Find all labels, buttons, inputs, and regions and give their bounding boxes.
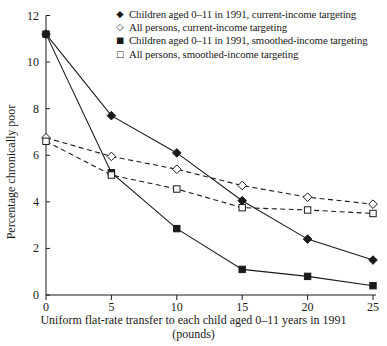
- y-tick-label: 4: [33, 195, 39, 209]
- filled-square-marker: [304, 273, 310, 279]
- filled-square-marker: [370, 282, 376, 288]
- y-tick-label: 10: [27, 55, 39, 69]
- filled-square-marker: [239, 266, 245, 272]
- legend-label: Children aged 0–11 in 1991, current-inco…: [129, 8, 356, 20]
- open-square-marker: [239, 204, 245, 210]
- filled-diamond-marker: [173, 149, 182, 158]
- open-diamond-icon: ◇: [114, 22, 126, 32]
- series-line-2: [46, 34, 373, 286]
- y-tick-label: 0: [33, 288, 39, 302]
- legend-item: □ All persons, smoothed-income targeting: [114, 47, 367, 60]
- chart-figure: 0246810120510152025 ◆ Children aged 0–11…: [0, 0, 387, 346]
- legend-label: All persons, smoothed-income targeting: [129, 48, 298, 60]
- x-tick-label: 0: [43, 300, 49, 314]
- legend-item: ◇ All persons, current-income targeting: [114, 20, 367, 33]
- open-diamond-marker: [173, 165, 182, 174]
- x-tick-label: 25: [367, 300, 379, 314]
- y-tick-label: 8: [33, 102, 39, 116]
- open-square-marker: [43, 138, 49, 144]
- filled-diamond-marker: [303, 235, 312, 244]
- legend-label: Children aged 0–11 in 1991, smoothed-inc…: [129, 34, 367, 46]
- x-axis-title-line2: (pounds): [0, 327, 387, 342]
- filled-square-icon: ■: [114, 36, 126, 45]
- open-diamond-marker: [369, 200, 378, 209]
- open-square-marker: [174, 186, 180, 192]
- open-square-icon: □: [114, 50, 126, 59]
- open-diamond-marker: [107, 152, 116, 161]
- x-tick-label: 5: [108, 300, 114, 314]
- legend-item: ◆ Children aged 0–11 in 1991, current-in…: [114, 7, 367, 20]
- y-axis-title: Percentage chronically poor: [4, 105, 19, 240]
- open-diamond-marker: [303, 193, 312, 202]
- open-square-marker: [304, 207, 310, 213]
- open-square-marker: [370, 210, 376, 216]
- series-line-0: [46, 34, 373, 260]
- filled-diamond-marker: [369, 256, 378, 265]
- filled-square-marker: [43, 31, 49, 37]
- x-tick-label: 10: [171, 300, 183, 314]
- y-tick-label: 12: [27, 9, 39, 23]
- x-axis-title-line1: Uniform flat-rate transfer to each child…: [0, 313, 387, 328]
- legend-item: ■ Children aged 0–11 in 1991, smoothed-i…: [114, 34, 367, 47]
- series-line-1: [46, 138, 373, 204]
- legend: ◆ Children aged 0–11 in 1991, current-in…: [114, 7, 367, 61]
- legend-label: All persons, current-income targeting: [129, 21, 287, 33]
- filled-diamond-marker: [238, 196, 247, 205]
- filled-diamond-icon: ◆: [114, 9, 126, 19]
- x-tick-label: 20: [302, 300, 314, 314]
- filled-square-marker: [174, 225, 180, 231]
- y-tick-label: 2: [33, 241, 39, 255]
- y-tick-label: 6: [33, 148, 39, 162]
- x-tick-label: 15: [236, 300, 248, 314]
- open-diamond-marker: [238, 181, 247, 190]
- open-square-marker: [108, 172, 114, 178]
